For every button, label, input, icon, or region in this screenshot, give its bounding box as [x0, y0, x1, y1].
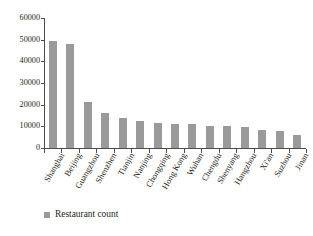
y-axis-tick-mark: [41, 40, 45, 41]
y-axis-tick-label: 20000: [20, 99, 40, 110]
bar: [49, 41, 57, 148]
y-axis-tick-mark: [41, 61, 45, 62]
legend-swatch-restaurant-count: [44, 212, 50, 218]
y-axis-tick-label: 30000: [20, 77, 40, 88]
y-axis-tick-mark: [41, 18, 45, 19]
x-axis-label-text: Jinan: [294, 152, 311, 172]
bar-chart-figure: 0100002000030000400005000060000 Shanghai…: [0, 0, 313, 236]
y-axis-tick-label: 50000: [20, 34, 40, 45]
legend-label-restaurant-count: Restaurant count: [55, 209, 118, 220]
y-axis-tick-mark: [41, 105, 45, 106]
x-axis-labels: ShanghaiBeijingGuangzhouShenzhenTianjinN…: [44, 150, 306, 202]
y-axis-tick-label: 40000: [20, 55, 40, 66]
chart-legend: Restaurant count: [44, 209, 118, 220]
y-axis-tick-label: 10000: [20, 120, 40, 131]
y-axis-tick-label: 60000: [20, 12, 40, 23]
x-axis-label-text: Shanghai: [42, 152, 66, 184]
y-axis-tick-mark: [41, 126, 45, 127]
y-axis-tick-mark: [41, 83, 45, 84]
y-axis-tick-label: 0: [36, 142, 40, 153]
